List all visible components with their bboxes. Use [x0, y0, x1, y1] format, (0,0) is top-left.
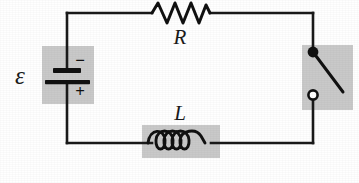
switch-pivot-terminal [308, 47, 319, 58]
circuit-diagram-figure: ε R L − + [0, 0, 359, 183]
emf-label: ε [15, 62, 25, 89]
resistor-label: R [173, 25, 187, 49]
battery-positive-sign: + [75, 82, 85, 101]
switch-open-contact-terminal [308, 90, 317, 99]
battery-negative-sign: − [75, 51, 85, 70]
inductor-label: L [173, 101, 186, 125]
resistor-symbol [152, 3, 210, 23]
circuit-schematic-canvas: ε R L − + [0, 0, 359, 183]
